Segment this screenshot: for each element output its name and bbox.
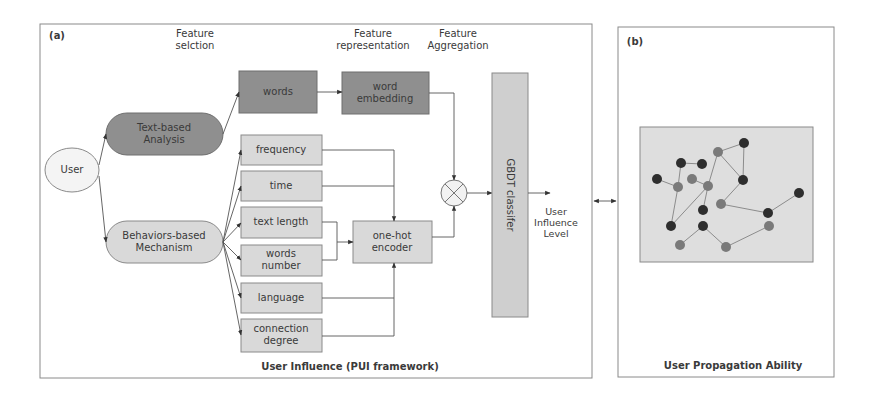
- network-node: [716, 199, 726, 209]
- network-node: [698, 221, 708, 231]
- output-label: UserInfluenceLevel: [534, 206, 578, 239]
- panel-b-tag: (b): [627, 36, 643, 48]
- diagram-canvas: [0, 0, 871, 403]
- one-hot-encoder-label: one-hotencoder: [372, 230, 413, 254]
- network-node: [738, 175, 748, 185]
- network-node: [763, 208, 773, 218]
- network-graph-box: [640, 127, 813, 262]
- panel-b-caption: User Propagation Ability: [664, 360, 802, 372]
- network-node: [764, 221, 774, 231]
- network-node: [698, 205, 708, 215]
- network-node: [673, 182, 683, 192]
- network-node: [652, 174, 662, 184]
- network-node: [687, 174, 697, 184]
- network-node: [721, 242, 731, 252]
- feature-label: language: [258, 292, 305, 304]
- header-feature-representation: Featurerepresentation: [336, 28, 409, 52]
- network-node: [676, 158, 686, 168]
- gbdt-classifier-label: GBDT classifer: [505, 159, 516, 232]
- network-node: [666, 221, 676, 231]
- network-node: [794, 188, 804, 198]
- feature-label: connectiondegree: [253, 323, 308, 347]
- behaviors-based-label: Behaviors-basedMechanism: [122, 230, 205, 254]
- network-node: [675, 240, 685, 250]
- header-feature-selection: Featureselction: [176, 28, 215, 52]
- network-node: [713, 147, 723, 157]
- header-feature-aggregation: FeatureAggregation: [427, 28, 488, 52]
- network-node: [697, 159, 707, 169]
- panel-a-caption: User Influence (PUI framework): [261, 361, 438, 373]
- words-label: words: [263, 86, 293, 98]
- feature-label: text length: [254, 216, 309, 228]
- feature-label: wordsnumber: [261, 248, 300, 272]
- feature-label: time: [270, 180, 293, 192]
- panel-a-tag: (a): [49, 30, 65, 42]
- user-label: User: [61, 164, 84, 176]
- network-node: [739, 138, 749, 148]
- text-based-label: Text-basedAnalysis: [137, 122, 191, 146]
- circled-times-icon: [441, 180, 467, 206]
- feature-label: frequency: [256, 144, 306, 156]
- network-node: [703, 181, 713, 191]
- word-embedding-label: wordembedding: [357, 81, 414, 105]
